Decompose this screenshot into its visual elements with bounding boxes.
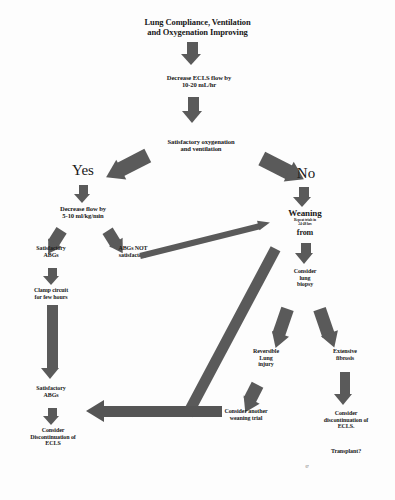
arrow-weaning-trial-feedback-diagonal <box>182 246 282 419</box>
node-consider-lung-biopsy: Consider lung biopsy <box>272 268 338 288</box>
arrow-start-to-decrease-flow <box>185 42 201 65</box>
node-extensive-fibrosis: Extensive fibrosis <box>310 348 380 361</box>
arrow-weaning-to-lung-biopsy <box>299 243 313 264</box>
label-yes: Yes <box>60 162 106 179</box>
node-consider-discontinuation-left: Consider Discontinuation of ECLS <box>8 427 98 447</box>
label-no: No <box>285 165 327 182</box>
arrow-satisfactory-abgs-2-to-discontinuation <box>46 408 59 425</box>
node-transplant: Transplant? <box>300 448 392 455</box>
node-satisfactory-abgs-1: Satisfactory ABGs <box>14 245 88 258</box>
arrow-satisfactory-abgs-to-clamp <box>46 268 59 285</box>
arrow-branch-yes <box>102 149 152 185</box>
node-decrease-flow-rate: Decrease flow by 5-10 ml/kg/min <box>28 205 138 220</box>
page-artifact: 07 <box>295 466 319 470</box>
node-satisfactory-oxygenation: Satisfactory oxygenation and ventilation <box>140 138 262 153</box>
node-consider-discontinuation-right: Consider discontinuation of ECLS. <box>300 410 392 430</box>
node-weaning-from: from <box>272 229 338 238</box>
node-satisfactory-abgs-2: Satisfactory ABGs <box>13 385 89 398</box>
arrow-abgs-not-satisfactory-to-weaning <box>139 218 277 259</box>
node-weaning-subtext: Repeat trials in 24-48 hrs <box>272 219 338 227</box>
arrow-clamp-to-satisfactory-abgs-2 <box>45 305 59 379</box>
arrow-fibrosis-to-discontinuation <box>338 372 352 405</box>
node-clamp-circuit: Clamp circuit for few hours <box>13 287 89 300</box>
node-reversible-lung-injury: Reversible Lung injury <box>232 348 300 368</box>
node-decrease-ecls-flow: Decrease ECLS flow by 10-20 mL/hr <box>140 74 258 89</box>
arrow-yes-to-decrease-flow-rate <box>77 185 90 203</box>
node-weaning: Weaning <box>272 208 338 218</box>
node-start: Lung Compliance, Ventilation and Oxygena… <box>110 18 285 37</box>
arrow-no-to-weaning <box>297 187 311 207</box>
flowchart-canvas: Lung Compliance, Ventilation and Oxygena… <box>0 0 395 500</box>
arrow-feedback-to-satisfactory-abgs-2 <box>86 400 222 422</box>
arrow-decrease-flow-to-satisfactory-oxygenation <box>186 97 202 123</box>
